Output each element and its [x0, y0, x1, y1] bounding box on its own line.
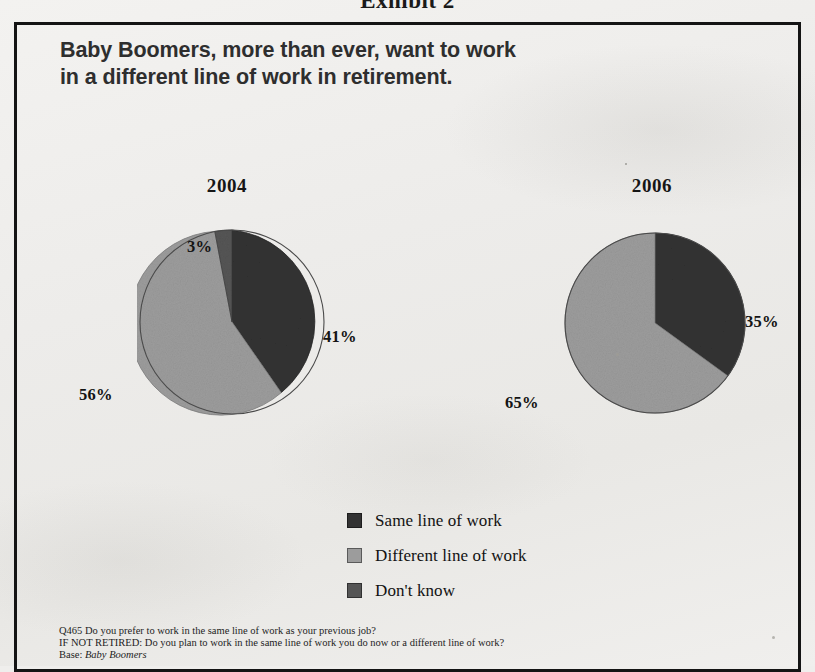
- pie-chart-2004-graphic: [137, 227, 327, 417]
- legend-label-same-line-of-work: Same line of work: [375, 511, 502, 531]
- pie-value-label-2006-different: 65%: [505, 393, 539, 413]
- legend-swatch-icon-different-line-of-work: [347, 548, 362, 563]
- legend-item-different-line-of-work: Different line of work: [347, 541, 527, 570]
- pie-value-label-2004-different: 56%: [79, 385, 113, 405]
- footnote-question-line-1: Q465 Do you prefer to work in the same l…: [59, 625, 504, 637]
- footnote-base-value: Baby Boomers: [85, 649, 147, 660]
- pie-value-label-2004-dont-know: 3%: [187, 237, 212, 257]
- pie-chart-2004-year-label: 2004: [167, 175, 287, 197]
- pie-chart-2006-slices: [565, 233, 745, 413]
- pie-chart-2004-slices: [137, 230, 315, 415]
- pie-value-label-2004-same: 41%: [323, 327, 357, 347]
- legend-swatch-icon-dont-know: [347, 583, 362, 598]
- legend-swatch-icon-same-line-of-work: [347, 513, 362, 528]
- page-title-line-1: Baby Boomers, more than ever, want to wo…: [60, 37, 700, 64]
- exhibit-panel: Baby Boomers, more than ever, want to wo…: [14, 22, 801, 672]
- page-title: Baby Boomers, more than ever, want to wo…: [60, 37, 700, 91]
- pie-chart-2006-year-label: 2006: [592, 175, 712, 197]
- legend-label-dont-know: Don't know: [375, 581, 455, 601]
- footnote: Q465 Do you prefer to work in the same l…: [59, 625, 504, 661]
- footnote-base-line: Base: Baby Boomers: [59, 649, 504, 661]
- footnote-question-line-2: IF NOT RETIRED: Do you plan to work in t…: [59, 637, 504, 649]
- legend-item-same-line-of-work: Same line of work: [347, 506, 527, 535]
- legend-item-dont-know: Don't know: [347, 576, 527, 605]
- chart-legend: Same line of work Different line of work…: [347, 506, 527, 611]
- legend-label-different-line-of-work: Different line of work: [375, 546, 527, 566]
- page-title-line-2: in a different line of work in retiremen…: [60, 64, 700, 91]
- footnote-base-label: Base:: [59, 649, 85, 660]
- pie-chart-2006-graphic: [562, 230, 748, 416]
- pie-value-label-2006-same: 35%: [745, 312, 779, 332]
- exhibit-caption: Exhibit 2: [0, 0, 815, 9]
